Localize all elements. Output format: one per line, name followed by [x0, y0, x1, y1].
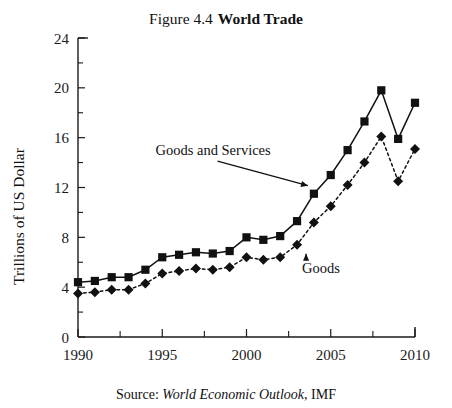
data-point-marker — [310, 190, 318, 198]
series-annotation-label: Goods — [302, 260, 340, 276]
y-tick-label: 0 — [62, 330, 70, 346]
source-note: Source: World Economic Outlook, IMF — [0, 387, 452, 403]
x-tick-label: 2005 — [316, 347, 346, 363]
data-point-marker — [327, 171, 335, 179]
data-point-marker — [377, 86, 385, 94]
x-tick-label: 1990 — [63, 347, 93, 363]
data-point-marker — [140, 278, 150, 288]
world-trade-line-chart: Trillions of US Dollar 04812162024 19901… — [0, 0, 452, 408]
data-point-marker — [360, 117, 368, 125]
data-point-marker — [191, 263, 201, 273]
data-point-marker — [242, 233, 250, 241]
figure-container: Figure 4.4World Trade Trillions of US Do… — [0, 0, 452, 408]
data-point-marker — [411, 99, 419, 107]
source-prefix: Source: — [116, 387, 159, 402]
data-point-marker — [208, 265, 218, 275]
data-point-marker — [242, 252, 252, 262]
y-tick-label: 4 — [62, 280, 70, 296]
y-tick-label: 16 — [54, 130, 70, 146]
data-point-marker — [226, 247, 234, 255]
data-point-marker — [124, 273, 132, 281]
y-tick-label: 20 — [54, 80, 69, 96]
y-axis-title: Trillions of US Dollar — [10, 147, 27, 285]
annotation-arrow-line — [218, 161, 308, 186]
x-tick-label: 2000 — [232, 347, 262, 363]
x-axis-ticks: 19901995200020052010 — [63, 329, 430, 363]
data-point-marker — [293, 217, 301, 225]
data-point-marker — [141, 266, 149, 274]
data-point-marker — [108, 273, 116, 281]
y-tick-label: 8 — [62, 230, 70, 246]
data-point-marker — [124, 285, 134, 295]
data-point-marker — [344, 146, 352, 154]
annotation-arrow-head — [303, 254, 309, 261]
figure-number: Figure 4.4 — [149, 10, 213, 27]
data-point-marker — [74, 278, 82, 286]
data-point-marker — [174, 266, 184, 276]
data-point-marker — [157, 268, 167, 278]
y-tick-label: 24 — [54, 31, 70, 47]
data-point-marker — [90, 287, 100, 297]
y-axis-ticks: 04812162024 — [54, 31, 85, 346]
data-point-marker — [393, 176, 403, 186]
data-point-marker — [276, 232, 284, 240]
data-point-marker — [225, 262, 235, 272]
source-publication: World Economic Outlook — [162, 387, 304, 402]
data-point-marker — [91, 277, 99, 285]
figure-title: Figure 4.4World Trade — [0, 10, 452, 28]
data-point-marker — [192, 248, 200, 256]
data-point-marker — [258, 255, 268, 265]
data-point-marker — [394, 135, 402, 143]
series-annotation-label: Goods and Services — [156, 142, 272, 158]
y-axis-title-text: Trillions of US Dollar — [10, 147, 27, 285]
y-tick-label: 12 — [54, 180, 69, 196]
data-point-marker — [209, 249, 217, 257]
x-tick-label: 2010 — [400, 347, 430, 363]
figure-name: World Trade — [218, 10, 303, 27]
data-point-marker — [410, 144, 420, 154]
data-point-marker — [73, 288, 83, 298]
x-tick-label: 1995 — [147, 347, 177, 363]
data-point-marker — [107, 285, 117, 295]
data-point-marker — [376, 131, 386, 141]
data-point-marker — [158, 253, 166, 261]
data-point-marker — [259, 236, 267, 244]
data-point-marker — [175, 251, 183, 259]
source-suffix: , IMF — [304, 387, 336, 402]
series-layer — [73, 86, 420, 298]
